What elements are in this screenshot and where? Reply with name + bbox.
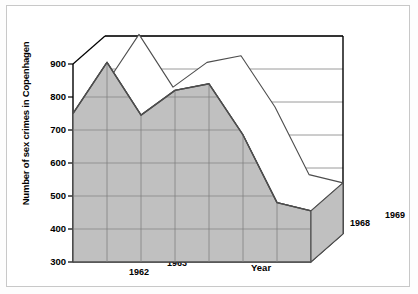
chart-plot-area — [0, 0, 418, 294]
chart-figure: Number of sex crimes in Copenhagen 900 8… — [0, 0, 418, 294]
data-series-area — [73, 34, 343, 262]
